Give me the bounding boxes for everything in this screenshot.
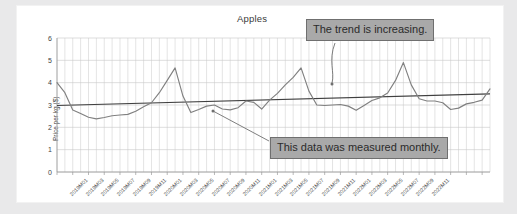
svg-text:1: 1 [48,146,52,153]
chart-card: Apples Price per kg ($) 0123456 2019M012… [17,6,503,202]
svg-text:5: 5 [48,57,52,64]
x-tick-marks [57,172,482,175]
leader-line-monthly [213,111,269,141]
svg-text:3: 3 [48,102,52,109]
leader-dot-monthly [212,110,215,113]
leader-dot-trend [331,83,334,86]
y-tick-labels: 0123456 [48,35,52,176]
screenshot-root: Apples Price per kg ($) 0123456 2019M012… [0,0,517,214]
callout-trend-increasing[interactable]: The trend is increasing. [306,19,434,41]
trendline [57,94,490,106]
data-series-line [57,63,490,119]
leader-line-trend [332,43,335,83]
svg-text:6: 6 [48,35,52,42]
svg-text:4: 4 [48,79,52,86]
svg-text:0: 0 [48,169,52,176]
svg-text:2: 2 [48,124,52,131]
callout-measured-monthly[interactable]: This data was measured monthly. [270,137,448,159]
